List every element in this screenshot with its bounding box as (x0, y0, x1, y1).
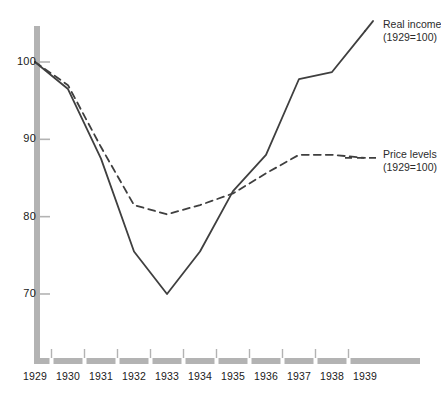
legend-label-real-income: Real income (1929=100) (383, 18, 441, 44)
legend-real-income-line2: (1929=100) (383, 31, 441, 44)
x-axis-segment-1935 (219, 358, 248, 364)
y-tick-label-70: 70 (6, 288, 36, 299)
x-axis-segment-1938 (318, 358, 347, 364)
y-axis-line (34, 26, 40, 364)
legend-price-levels-line1: Price levels (383, 148, 437, 161)
y-tick-label-90: 90 (6, 133, 36, 144)
x-axis-segment-1939 (351, 358, 421, 364)
y-tick-label-80: 80 (6, 211, 36, 222)
chart-plot-area (0, 0, 441, 395)
legend-real-income-line1: Real income (383, 18, 441, 31)
x-axis-segment-1930 (54, 358, 83, 364)
x-axis-segment-1934 (186, 358, 215, 364)
real-income-legend-leader (365, 21, 373, 31)
y-tick-label-100: 100 (6, 56, 36, 67)
chart-container: 100 90 80 70 1929 1930 1931 1932 1933 19… (0, 0, 441, 395)
x-axis-segment-1932 (120, 358, 149, 364)
legend-price-levels-line2: (1929=100) (383, 161, 437, 174)
series-line-price-levels (35, 62, 365, 214)
x-axis-segment-1937 (285, 358, 314, 364)
x-axis-ticks (52, 349, 349, 358)
x-axis-segment-1936 (252, 358, 281, 364)
x-axis-segment-1931 (87, 358, 116, 364)
legend-label-price-levels: Price levels (1929=100) (383, 148, 437, 174)
x-axis-segment-1929 (34, 358, 50, 364)
x-axis-segment-1933 (153, 358, 182, 364)
x-tick-label-1939: 1939 (345, 371, 385, 382)
x-axis-line (34, 358, 420, 364)
y-axis-ticks (40, 62, 50, 294)
series-line-real-income (35, 31, 365, 294)
